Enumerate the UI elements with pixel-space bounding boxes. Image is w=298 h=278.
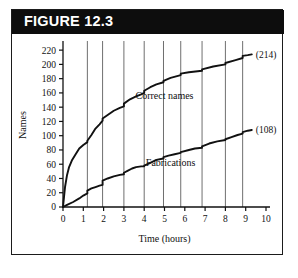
figure-number-label: FIGURE 12.3 — [24, 13, 113, 29]
y-axis-ticks: 020406080100120140160180200220 — [42, 46, 63, 213]
plot-area: 020406080100120140160180200220 012345678… — [12, 34, 284, 254]
axes-group — [63, 41, 270, 207]
line-chart-svg: 020406080100120140160180200220 012345678… — [12, 34, 284, 254]
y-tick-label-9: 180 — [42, 74, 57, 84]
series-label-fabrications: Fabrications — [146, 157, 196, 168]
x-tick-label-0: 0 — [61, 214, 66, 224]
y-tick-label-5: 100 — [42, 131, 57, 141]
x-axis-title: Time (hours) — [138, 233, 190, 245]
x-tick-label-5: 5 — [162, 214, 167, 224]
x-tick-label-9: 9 — [243, 214, 248, 224]
x-axis-ticks: 012345678910 — [61, 207, 271, 224]
figure-banner: FIGURE 12.3 — [12, 10, 284, 34]
x-tick-label-3: 3 — [122, 214, 127, 224]
figure-root: FIGURE 12.3 0204060801001201401601802002… — [0, 0, 298, 278]
x-tick-label-4: 4 — [142, 214, 147, 224]
y-tick-label-3: 60 — [47, 160, 57, 170]
x-tick-label-10: 10 — [261, 214, 271, 224]
y-tick-label-4: 80 — [47, 145, 57, 155]
y-tick-label-2: 40 — [47, 174, 57, 184]
endpoint-label-correct-names: (214) — [256, 50, 277, 61]
y-tick-label-1: 20 — [47, 188, 57, 198]
x-tick-label-1: 1 — [81, 214, 86, 224]
y-tick-label-0: 0 — [51, 202, 56, 212]
y-axis-title: Names — [17, 111, 28, 139]
chart-annotations: Correct names(214)Fabrications(108) — [135, 50, 276, 168]
y-tick-label-11: 220 — [42, 46, 57, 56]
series-line-fabrications — [63, 130, 252, 207]
figure-border-box: FIGURE 12.3 0204060801001201401601802002… — [11, 9, 283, 255]
y-tick-label-7: 140 — [42, 103, 57, 113]
data-series-group — [63, 54, 252, 207]
endpoint-label-fabrications: (108) — [256, 125, 277, 136]
y-tick-label-10: 200 — [42, 60, 57, 70]
x-tick-label-6: 6 — [182, 214, 187, 224]
x-tick-label-7: 7 — [203, 214, 208, 224]
series-line-correct-names — [63, 54, 252, 207]
y-tick-label-8: 160 — [42, 88, 57, 98]
x-tick-label-2: 2 — [101, 214, 106, 224]
series-label-correct-names: Correct names — [135, 90, 193, 101]
y-tick-label-6: 120 — [42, 117, 57, 127]
x-tick-label-8: 8 — [223, 214, 228, 224]
